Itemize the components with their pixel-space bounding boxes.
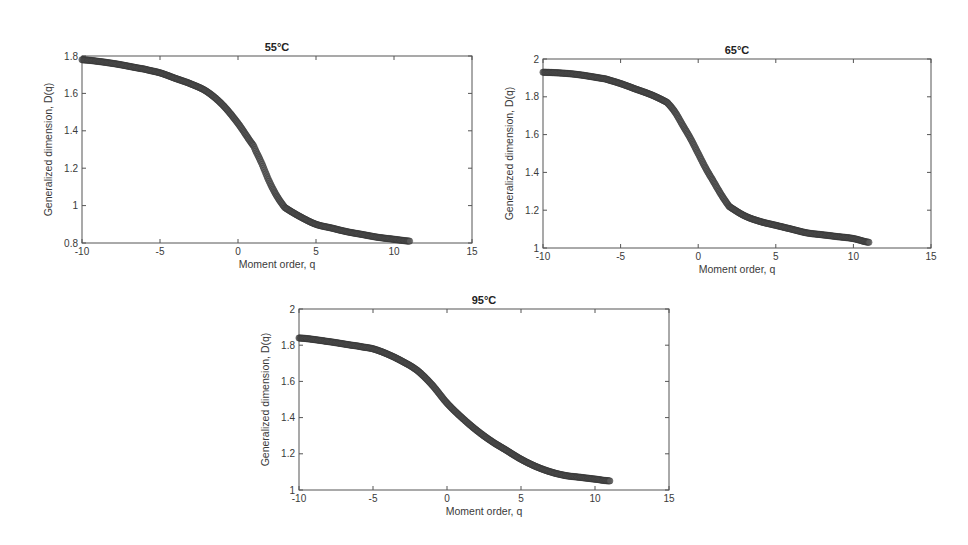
x-tick-label: -5 <box>616 251 625 262</box>
chart-title: 95°C <box>472 294 497 306</box>
x-tick-label: -5 <box>369 493 378 504</box>
x-tick-label: 5 <box>773 251 779 262</box>
x-tick-label: 10 <box>388 246 400 257</box>
y-tick-label: 1.2 <box>64 163 78 174</box>
chart-title: 65°C <box>725 44 750 56</box>
y-tick-label: 1.8 <box>525 91 539 102</box>
y-tick-label: 1.8 <box>281 340 295 351</box>
x-tick-label: -5 <box>156 246 165 257</box>
y-axis-label: Generalized dimension, D(q) <box>259 333 271 467</box>
y-tick-label: 1.4 <box>525 167 539 178</box>
x-tick-label: 0 <box>444 493 450 504</box>
plot-area <box>543 59 931 248</box>
y-tick-label: 0.8 <box>64 238 78 249</box>
x-axis-label: Moment order, q <box>446 505 523 517</box>
x-tick-label: 5 <box>313 246 319 257</box>
x-tick-label: 10 <box>848 251 860 262</box>
x-tick-label: 15 <box>466 246 478 257</box>
y-tick-label: 1 <box>533 243 539 254</box>
y-tick-label: 1 <box>289 485 295 496</box>
figure: -10-50510150.811.21.41.61.855°CMoment or… <box>0 0 968 545</box>
chart-panel-p95: -10-505101511.21.41.61.8295°CMoment orde… <box>259 294 675 517</box>
y-tick-label: 1.8 <box>64 51 78 62</box>
y-axis-label: Generalized dimension, D(q) <box>42 83 54 217</box>
x-tick-label: 10 <box>589 493 601 504</box>
x-tick-label: 15 <box>925 251 937 262</box>
y-tick-label: 1.6 <box>64 88 78 99</box>
chart-panel-p55: -10-50510150.811.21.41.61.855°CMoment or… <box>42 41 478 270</box>
x-tick-label: 15 <box>663 493 675 504</box>
y-tick-label: 1.6 <box>281 376 295 387</box>
x-axis-label: Moment order, q <box>699 263 776 275</box>
y-tick-label: 1.4 <box>64 125 78 136</box>
plot-area <box>299 309 669 490</box>
plot-area <box>82 56 472 243</box>
y-tick-label: 2 <box>533 54 539 65</box>
y-axis-label: Generalized dimension, D(q) <box>503 87 515 221</box>
x-tick-label: 0 <box>695 251 701 262</box>
y-tick-label: 1.2 <box>281 448 295 459</box>
chart-title: 55°C <box>265 41 290 53</box>
y-tick-label: 1 <box>72 200 78 211</box>
x-tick-label: 5 <box>518 493 524 504</box>
y-tick-label: 1.4 <box>281 412 295 423</box>
y-tick-label: 1.2 <box>525 205 539 216</box>
y-tick-label: 2 <box>289 304 295 315</box>
y-tick-label: 1.6 <box>525 129 539 140</box>
x-axis-label: Moment order, q <box>239 258 316 270</box>
x-tick-label: 0 <box>235 246 241 257</box>
chart-panel-p65: -10-505101511.21.41.61.8265°CMoment orde… <box>503 44 937 275</box>
